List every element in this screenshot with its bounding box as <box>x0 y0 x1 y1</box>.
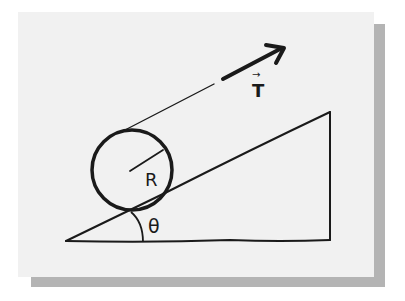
incline-wedge <box>66 112 330 242</box>
string <box>125 84 214 130</box>
physics-diagram: θ R → T <box>0 0 405 301</box>
incline-surface <box>66 112 330 241</box>
tension-vector-marker: → <box>252 69 260 80</box>
radius-line <box>130 150 163 171</box>
radius-label: R <box>145 169 158 190</box>
wedge-base <box>66 240 330 242</box>
angle-label: θ <box>148 215 160 237</box>
angle-arc <box>131 212 143 242</box>
tension-label: T <box>252 80 265 101</box>
